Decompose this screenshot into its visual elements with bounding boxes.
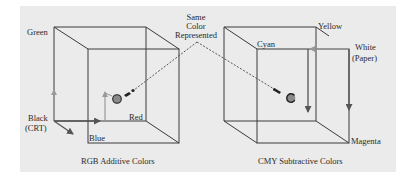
yellow-corner-label: Yellow bbox=[318, 21, 343, 31]
cmy-caption: CMY Subtractive Colors bbox=[258, 156, 343, 166]
cyan-corner-label: Cyan bbox=[257, 39, 276, 49]
green-corner-label: Green bbox=[27, 27, 49, 37]
rgb-caption: RGB Additive Colors bbox=[81, 156, 155, 166]
black-corner-label: Black bbox=[28, 113, 49, 123]
red-corner-label: Red bbox=[129, 112, 143, 122]
same-color-label-line3: Represented bbox=[175, 30, 218, 40]
color-models-diagram: Green Black (CRT) Red Blue RGB Additive … bbox=[0, 0, 412, 186]
rgb-color-point bbox=[113, 95, 122, 104]
white-corner-label: White bbox=[355, 42, 376, 52]
magenta-corner-label: Magenta bbox=[351, 136, 381, 146]
white-corner-sublabel: (Paper) bbox=[352, 53, 377, 63]
blue-corner-label: Blue bbox=[89, 133, 105, 143]
black-corner-sublabel: (CRT) bbox=[25, 123, 47, 133]
